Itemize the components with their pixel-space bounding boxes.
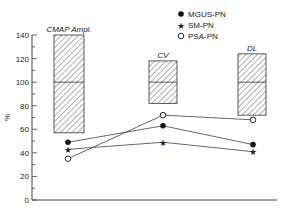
legend: MGUS-PN★SM-PNPSA-PN (177, 10, 226, 41)
legend-label: PSA-PN (188, 32, 218, 41)
reference-boxes: CMAP Ampl.CVDL (46, 25, 266, 133)
star-marker: ★ (177, 21, 185, 31)
filled-circle-marker (178, 11, 184, 17)
filled-circle-marker (160, 123, 166, 129)
star-marker: ★ (159, 138, 167, 148)
y-tick-label: 60 (20, 125, 29, 134)
star-marker: ★ (64, 145, 72, 155)
reference-box: CMAP Ampl. (46, 25, 91, 133)
y-tick-label: 0 (25, 196, 30, 205)
y-tick-label: 80 (20, 102, 29, 111)
open-circle-marker (65, 156, 71, 162)
legend-item: PSA-PN (178, 32, 218, 41)
box-label: DL (247, 44, 257, 53)
legend-label: SM-PN (188, 21, 214, 30)
legend-item: MGUS-PN (178, 10, 226, 19)
series-lines: ★★★ (64, 112, 257, 161)
star-marker: ★ (249, 147, 257, 157)
y-tick-label: 140 (16, 31, 30, 40)
y-tick-label: 20 (20, 172, 29, 181)
reference-box: CV (149, 51, 177, 103)
box-label: CMAP Ampl. (46, 25, 91, 34)
legend-label: MGUS-PN (188, 10, 226, 19)
y-tick-label: 120 (16, 55, 30, 64)
axes: 020406080100120140% (3, 31, 277, 205)
y-axis-label: % (3, 114, 12, 121)
legend-item: ★SM-PN (177, 21, 214, 31)
open-circle-marker (178, 33, 184, 39)
reference-box: DL (238, 44, 266, 115)
box-label: CV (157, 51, 169, 60)
y-tick-label: 40 (20, 149, 29, 158)
open-circle-marker (160, 112, 166, 118)
open-circle-marker (250, 117, 256, 123)
y-tick-label: 100 (16, 78, 30, 87)
chart: 020406080100120140% CMAP Ampl.CVDL ★★★ M… (0, 0, 289, 210)
